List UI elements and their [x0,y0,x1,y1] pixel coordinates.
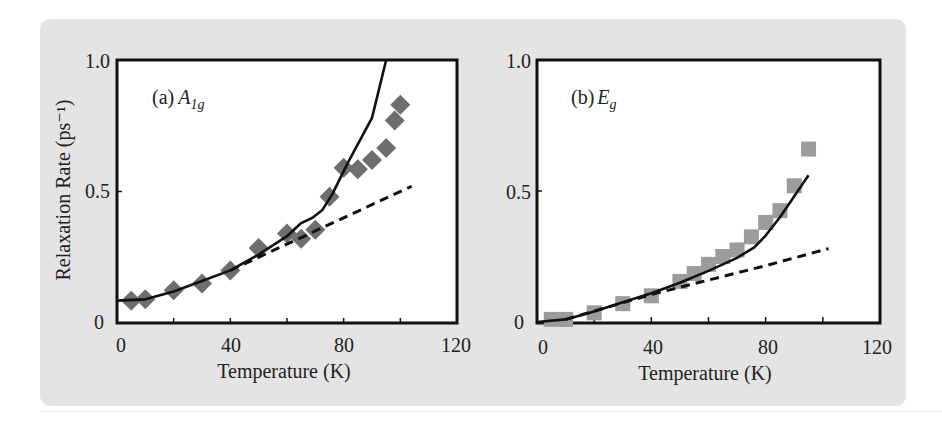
x-tick-label: 80 [758,336,778,358]
x-tick-label: 40 [643,336,663,358]
figure: (a)A1g 1.0 0.5 0 0 40 80 120 Temperature… [0,0,942,424]
data-point-square [801,142,816,157]
y-tick-label: 1.0 [85,50,110,72]
x-axis-title-a: Temperature (K) [217,360,351,383]
chart-panel-a: (a)A1g 1.0 0.5 0 0 40 80 120 Temperature… [52,50,471,383]
x-tick-label: 0 [116,334,126,356]
y-axis-title: Relaxation Rate (ps⁻¹) [52,100,75,281]
y-tick-label: 0 [94,311,104,333]
y-tick-label: 0.5 [85,180,110,202]
x-tick-label: 120 [862,336,892,358]
data-point-square [744,229,759,244]
y-tick-label: 1.0 [506,50,531,72]
x-axis-title-b: Temperature (K) [638,362,772,385]
y-tick-label: 0.5 [506,181,531,203]
data-point-square [787,178,802,193]
chart-panel-b: (b)Eg 1.0 0.5 0 0 40 80 120 Temperature … [506,50,892,385]
x-tick-label: 40 [221,334,241,356]
x-tick-label: 120 [441,334,471,356]
x-tick-label: 80 [334,334,354,356]
x-tick-label: 0 [538,336,548,358]
y-tick-label: 0 [514,311,524,333]
